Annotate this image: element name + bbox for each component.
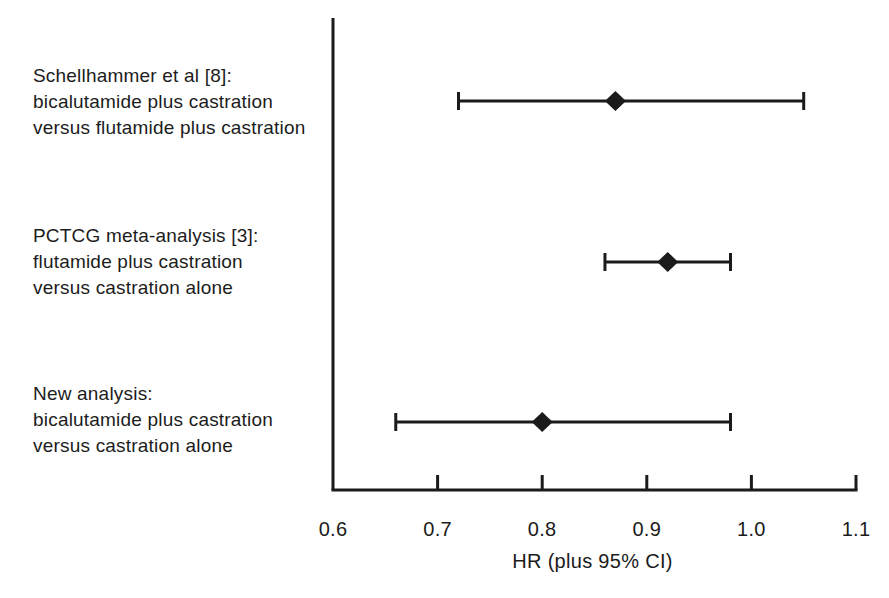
x-axis-title: HR (plus 95% CI) [512,550,672,572]
forest-plot-figure: Schellhammer et al [8]: bicalutamide plu… [0,0,889,598]
x-axis-tick-label: 0.8 [528,518,557,540]
x-axis-tick-label: 1.0 [737,518,766,540]
x-axis-tick-label: 0.9 [632,518,661,540]
x-axis-tick-label: 0.6 [319,518,348,540]
hr-point-diamond [605,91,626,111]
x-axis-tick-label: 0.7 [423,518,452,540]
hr-point-diamond [532,412,553,432]
x-axis-tick-label: 1.1 [842,518,871,540]
hr-point-diamond [657,252,678,272]
forest-plot-canvas: 0.60.70.80.91.01.1HR (plus 95% CI) [0,0,889,598]
